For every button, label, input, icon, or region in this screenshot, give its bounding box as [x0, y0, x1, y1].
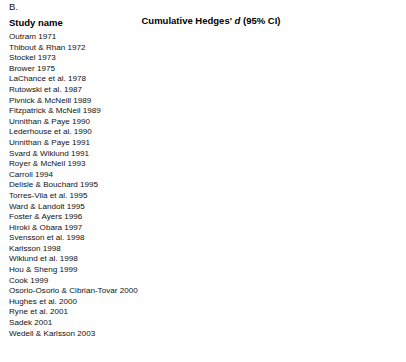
- forest-plot-canvas: [0, 0, 406, 362]
- forest-plot-figure: B. Study name Cumulative Hedges' d (95% …: [0, 0, 406, 362]
